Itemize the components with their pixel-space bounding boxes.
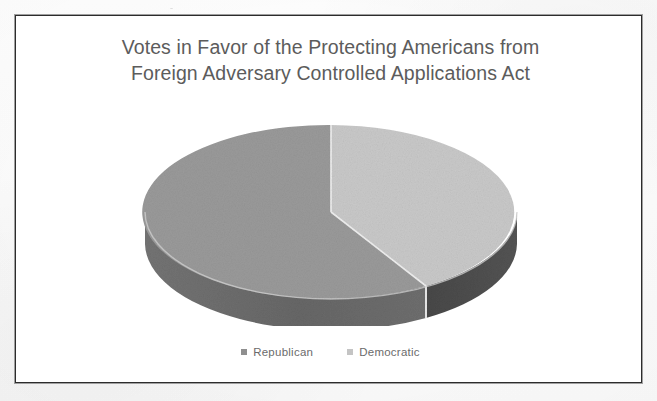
pie-chart-svg (121, 94, 541, 326)
chart-legend: Republican Democratic (16, 346, 645, 358)
chart-title: Votes in Favor of the Protecting America… (56, 34, 605, 86)
pie-chart-area (16, 94, 645, 326)
legend-label-republican: Republican (253, 346, 313, 358)
legend-swatch-democratic-icon (347, 349, 353, 355)
figure-page: Votes in Favor of the Protecting America… (0, 0, 657, 401)
legend-item-republican[interactable]: Republican (241, 346, 313, 358)
legend-label-democratic: Democratic (359, 346, 420, 358)
legend-item-democratic[interactable]: Democratic (347, 346, 420, 358)
legend-swatch-republican-icon (241, 349, 247, 355)
chart-title-line-2: Foreign Adversary Controlled Application… (131, 62, 530, 84)
print-speck (170, 8, 173, 9)
chart-frame: Votes in Favor of the Protecting America… (14, 14, 643, 384)
chart-title-line-1: Votes in Favor of the Protecting America… (122, 36, 540, 58)
